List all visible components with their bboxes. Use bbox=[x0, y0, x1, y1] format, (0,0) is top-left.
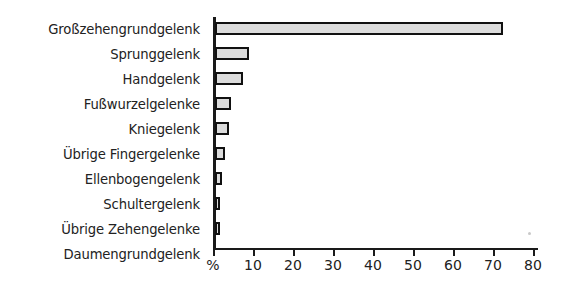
bar-chart: GroßzehengrundgelenkSprunggelenkHandgele… bbox=[0, 0, 570, 292]
bar bbox=[215, 97, 231, 110]
category-label: Daumengrundgelenk bbox=[64, 242, 201, 267]
bar bbox=[215, 197, 220, 210]
category-label: Übrige Zehengelenke bbox=[61, 217, 200, 242]
category-label: Fußwurzelgelenke bbox=[84, 92, 200, 117]
tick-mark bbox=[493, 250, 495, 256]
tick-label: 30 bbox=[324, 257, 342, 273]
category-label: Kniegelenk bbox=[128, 117, 200, 142]
tick-label: 40 bbox=[364, 257, 382, 273]
tick-mark bbox=[253, 250, 255, 256]
tick-mark bbox=[293, 250, 295, 256]
category-label: Schultergelenk bbox=[103, 192, 200, 217]
category-label: Übrige Fingergelenke bbox=[63, 142, 200, 167]
tick-label: 80 bbox=[524, 257, 542, 273]
tick-mark bbox=[533, 250, 535, 256]
bar bbox=[215, 172, 222, 185]
bar bbox=[215, 72, 243, 85]
bar bbox=[215, 222, 220, 235]
scan-artifact-speck bbox=[528, 232, 531, 235]
tick-mark bbox=[213, 250, 215, 256]
plot-area bbox=[213, 17, 538, 250]
category-label: Großzehengrundgelenk bbox=[48, 17, 200, 42]
bar bbox=[215, 122, 229, 135]
tick-mark bbox=[453, 250, 455, 256]
category-label: Sprunggelenk bbox=[110, 42, 200, 67]
tick-mark bbox=[333, 250, 335, 256]
tick-mark bbox=[373, 250, 375, 256]
category-label: Handgelenk bbox=[123, 67, 200, 92]
tick-label: 60 bbox=[444, 257, 462, 273]
value-axis-ticks: %1020304050607080 bbox=[213, 250, 538, 288]
category-label: Ellenbogengelenk bbox=[85, 167, 200, 192]
tick-label: 70 bbox=[484, 257, 502, 273]
axis-unit-label: % bbox=[206, 257, 220, 273]
bar bbox=[215, 147, 225, 160]
tick-label: 20 bbox=[284, 257, 302, 273]
tick-label: 50 bbox=[404, 257, 422, 273]
tick-label: 10 bbox=[244, 257, 262, 273]
category-label-column: GroßzehengrundgelenkSprunggelenkHandgele… bbox=[0, 17, 208, 267]
bar bbox=[215, 47, 249, 60]
bar bbox=[215, 22, 503, 35]
tick-mark bbox=[413, 250, 415, 256]
